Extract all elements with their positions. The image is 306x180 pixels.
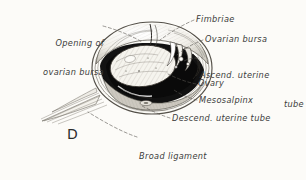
label-ovary: Ovary — [198, 79, 224, 89]
figure-letter: D — [67, 126, 78, 142]
label-ovarian-bursa: Ovarian bursa — [205, 35, 267, 45]
label-descend-uterine-tube: Descend. uterine tube — [172, 114, 271, 124]
anatomical-figure: Opening of ovarian bursa Fimbriae Ovaria… — [0, 0, 306, 180]
label-line: Broad ligament — [139, 152, 279, 162]
label-fimbriae: Fimbriae — [196, 15, 235, 25]
leader-broad-ligament — [88, 112, 137, 137]
label-line: ovarian bursa — [8, 68, 104, 78]
label-opening-of-ovarian-bursa: Opening of ovarian bursa — [8, 20, 104, 97]
label-line: Opening of — [8, 39, 104, 49]
label-mesosalpinx: Mesosalpinx — [199, 96, 253, 106]
label-broad-ligament: Broad ligament (mesovarium) — [139, 133, 279, 180]
